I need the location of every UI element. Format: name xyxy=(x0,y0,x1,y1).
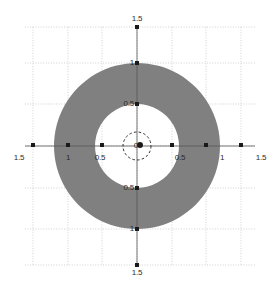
y-tick-1 xyxy=(135,61,139,65)
y-tick-m05 xyxy=(135,186,139,190)
tick-label-x-minus-1: 1 xyxy=(66,154,70,162)
tick-label-x-left-end: 1.5 xyxy=(14,154,25,162)
tick-label-x-right-end: 1.5 xyxy=(256,154,267,162)
tick-label-x-05: 0.5 xyxy=(175,154,186,162)
x-tick-m05 xyxy=(100,143,104,147)
tick-label-y-top: 1.5 xyxy=(132,15,143,23)
y-tick-05 xyxy=(135,102,139,106)
tick-label-y-minus-1: 1 xyxy=(130,225,134,233)
tick-label-origin: 0 xyxy=(134,142,138,150)
plot-canvas xyxy=(0,0,280,293)
region-plot-figure: 1.5 1.5 1.5 1.5 1 0.5 0.5 1 1 0.5 0.5 1 … xyxy=(0,0,280,293)
y-tick-15 xyxy=(135,25,139,29)
y-tick-m15 xyxy=(135,263,139,267)
x-tick-15 xyxy=(239,143,243,147)
x-tick-05 xyxy=(170,143,174,147)
x-tick-1 xyxy=(204,143,208,147)
x-tick-m15 xyxy=(31,143,35,147)
tick-label-y-05: 0.5 xyxy=(123,100,134,108)
tick-label-y-1: 1 xyxy=(130,59,134,67)
tick-label-y-bottom: 1.5 xyxy=(132,269,143,277)
tick-label-y-minus-05: 0.5 xyxy=(123,184,134,192)
tick-label-x-1: 1 xyxy=(220,154,224,162)
y-tick-m1 xyxy=(135,227,139,231)
tick-label-x-minus-05: 0.5 xyxy=(95,154,106,162)
x-tick-m1 xyxy=(66,143,70,147)
